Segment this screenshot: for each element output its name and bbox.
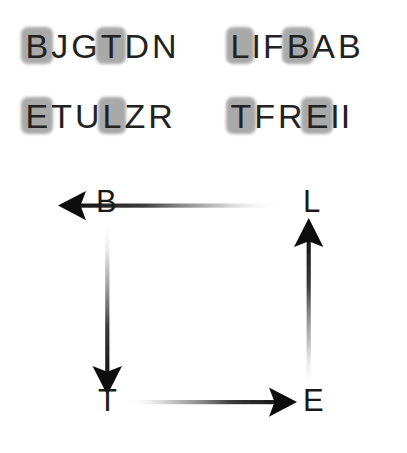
cycle-arrows-svg <box>0 160 407 453</box>
letter-glyph: Z <box>123 94 147 138</box>
arrow-e-to-l <box>294 218 323 390</box>
arrow-l-to-b <box>58 191 283 220</box>
word-top-left: B J G T D N <box>24 24 178 68</box>
arrow-b-to-t <box>93 222 123 395</box>
arrow-t-to-e <box>125 388 297 417</box>
word-grid: B J G T D N L I F B A B E T U L Z R T F … <box>0 0 407 160</box>
node-label-b: B <box>96 186 117 217</box>
letter-glyph: G <box>70 24 99 68</box>
node-label-t: T <box>98 385 117 416</box>
letter-glyph: R <box>147 94 175 138</box>
letter-glyph: F <box>253 94 277 138</box>
letter-glyph: B <box>337 24 363 68</box>
word-top-right: L I F B A B <box>229 24 362 68</box>
node-label-l: L <box>303 186 320 217</box>
node-label-e: E <box>303 385 324 416</box>
letter-glyph: T <box>50 94 74 138</box>
letter-glyph: I <box>251 24 261 68</box>
word-bottom-left: E T U L Z R <box>24 94 174 138</box>
letter-glyph: N <box>150 24 178 68</box>
letter-glyph: L <box>101 94 123 138</box>
letter-glyph: E <box>24 94 50 138</box>
word-bottom-right: T F R E I I <box>229 94 351 138</box>
letter-glyph: B <box>285 24 311 68</box>
letter-glyph: B <box>24 24 50 68</box>
letter-glyph: J <box>50 24 70 68</box>
letter-glyph: T <box>99 24 123 68</box>
letter-glyph: T <box>229 94 253 138</box>
cycle-diagram: B L T E <box>0 160 407 453</box>
letter-glyph: U <box>73 94 101 138</box>
letter-glyph: L <box>229 24 251 68</box>
letter-glyph: E <box>304 94 330 138</box>
letter-glyph: I <box>340 94 350 138</box>
letter-glyph: I <box>330 94 340 138</box>
letter-glyph: A <box>311 24 337 68</box>
letter-glyph: D <box>123 24 151 68</box>
letter-glyph: R <box>277 94 305 138</box>
